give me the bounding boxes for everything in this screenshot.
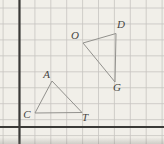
vertex-label-D: D	[116, 18, 125, 30]
vertex-label-G: G	[113, 81, 121, 93]
triangle-ODG	[83, 34, 116, 83]
vertex-label-A: A	[42, 68, 50, 80]
vertex-label-C: C	[23, 108, 31, 120]
triangle-CAT	[35, 81, 82, 113]
vertex-label-O: O	[71, 29, 79, 41]
vertex-label-T: T	[82, 111, 89, 123]
grid-canvas: ACTODG	[0, 0, 164, 144]
graph-paper-figure: ACTODG	[0, 0, 164, 144]
